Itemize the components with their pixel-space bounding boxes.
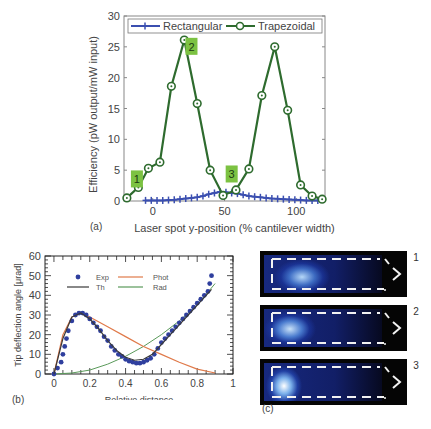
y-tick-label: 30 — [29, 309, 41, 321]
y-tick-label: 10 — [29, 348, 41, 360]
legend: RectangularTrapezoidal — [128, 19, 322, 33]
exp-point — [207, 281, 212, 286]
x-tick-label: 100 — [287, 205, 305, 217]
y-tick-label: 50 — [29, 270, 41, 282]
chart-a: 051015202530050100Laser spot y-position … — [0, 0, 431, 240]
plot-frame — [124, 16, 325, 201]
svg-text:Trapezoidal: Trapezoidal — [258, 20, 315, 32]
image-number-1: 1 — [409, 252, 423, 263]
y-tick-label: 5 — [114, 164, 120, 176]
y-tick-label: 0 — [114, 195, 120, 207]
panel-label-b: (b) — [12, 394, 24, 405]
y-tick-label: 60 — [29, 250, 41, 262]
cantilever-image-2 — [260, 305, 407, 351]
panel-label-c: (c) — [262, 403, 274, 414]
exp-point — [209, 273, 214, 278]
x-tick-label: 0.6 — [154, 378, 168, 389]
x-tick-label: 50 — [218, 205, 230, 217]
svg-text:2: 2 — [188, 41, 194, 53]
y-tick-label: 15 — [108, 103, 120, 115]
y-tick-label: 20 — [108, 72, 120, 84]
x-tick-label: 0.4 — [119, 378, 133, 389]
svg-text:Rad: Rad — [153, 283, 167, 292]
x-axis-label: Relative distance — [105, 395, 174, 400]
y-axis-label: Tip deflection angle [μrad] — [13, 263, 23, 366]
chart-b: 010203040506000.20.40.60.81Relative dist… — [0, 240, 245, 400]
annotation-badge: 3 — [226, 165, 238, 182]
panel-label-a: (a) — [90, 221, 102, 232]
cantilever-image-1 — [260, 251, 407, 297]
annotation-badge: 2 — [185, 38, 197, 55]
x-tick-label: 0 — [150, 205, 156, 217]
y-tick-label: 10 — [108, 133, 120, 145]
y-tick-label: 25 — [108, 41, 120, 53]
dashed-outline — [260, 251, 407, 297]
svg-text:3: 3 — [229, 168, 235, 180]
y-tick-label: 0 — [35, 368, 41, 380]
image-number-3: 3 — [409, 360, 423, 371]
cantilever-image-3 — [260, 359, 407, 405]
exp-point — [59, 360, 64, 365]
svg-text:1: 1 — [134, 173, 140, 185]
exp-point — [64, 336, 69, 341]
y-tick-label: 20 — [29, 329, 41, 341]
y-tick-label: 30 — [108, 10, 120, 22]
x-tick-label: 0 — [51, 378, 57, 389]
exp-point — [61, 352, 66, 357]
svg-text:Phot: Phot — [153, 273, 169, 282]
x-tick-label: 0.2 — [83, 378, 97, 389]
y-tick-label: 40 — [29, 289, 41, 301]
image-number-2: 2 — [409, 306, 423, 317]
svg-text:Rectangular: Rectangular — [163, 20, 223, 32]
dashed-outline — [260, 359, 407, 405]
image-stack: 123 — [260, 251, 431, 411]
svg-text:Exp: Exp — [96, 273, 109, 282]
annotation-badge: 1 — [131, 170, 143, 187]
x-axis-label: Laser spot y-position (% cantilever widt… — [134, 222, 335, 234]
y-axis-label: Efficiency (pW output/mW input) — [87, 36, 99, 193]
x-tick-label: 1 — [230, 378, 236, 389]
exp-point — [62, 344, 67, 349]
svg-text:Th: Th — [96, 283, 105, 292]
dashed-outline — [260, 305, 407, 351]
x-tick-label: 0.8 — [190, 378, 204, 389]
